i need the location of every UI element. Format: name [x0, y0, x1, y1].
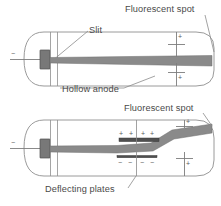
deflected-tube-panel: − + + + + − − − − +	[10, 113, 214, 188]
lower-plate-charge-1: −	[118, 159, 122, 166]
anode-plus-sign-lower-bottom: +	[186, 160, 190, 167]
upper-plate-charge-3: +	[141, 130, 145, 137]
lower-plate-charge-3: −	[140, 159, 144, 166]
electron-beam-top	[50, 56, 212, 67]
anode-plus-sign-upper-top: +	[178, 33, 182, 40]
anode-plus-sign-lower-top: +	[178, 74, 182, 81]
anode-plus-sign-upper-bottom: +	[186, 118, 190, 125]
leader-fluorescent-spot-bottom	[203, 113, 212, 126]
label-hollow-anode: Hollow anode	[62, 84, 119, 94]
cathode-bottom	[40, 139, 50, 158]
lower-plate-charge-4: −	[150, 159, 154, 166]
cathode-minus-sign-bottom: −	[11, 139, 15, 146]
cathode-top	[40, 50, 50, 69]
leader-deflecting-plates	[128, 176, 136, 188]
cathode-minus-sign-top: −	[11, 50, 15, 57]
lower-plate-charge-2: −	[128, 159, 132, 166]
label-slit: Slit	[89, 25, 102, 35]
label-fluorescent-spot-bottom: Fluorescent spot	[124, 103, 194, 113]
deflecting-plate-lower	[117, 156, 157, 158]
deflecting-plate-upper	[119, 138, 159, 142]
undeflected-tube-panel: − + +	[10, 15, 214, 88]
label-fluorescent-spot-top: Fluorescent spot	[125, 4, 195, 14]
upper-plate-charge-2: +	[129, 130, 133, 137]
upper-plate-charge-1: +	[119, 130, 123, 137]
upper-plate-charge-4: +	[150, 130, 154, 137]
label-deflecting-plates: Deflecting plates	[45, 184, 115, 194]
cathode-ray-tube-figure: .tube { fill:none; stroke:#8e8e8e; strok…	[0, 0, 221, 206]
